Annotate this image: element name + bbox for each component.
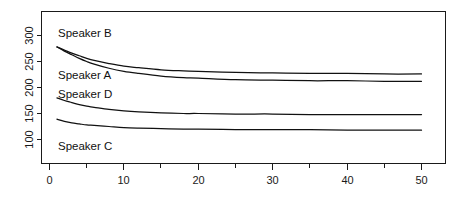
y-tick-label-200: 200 <box>23 78 35 96</box>
x-axis-tick-labels: 0 10 20 30 40 50 <box>46 174 427 186</box>
y-tick-label-300: 300 <box>23 26 35 44</box>
series-label-speaker-c: Speaker C <box>58 140 112 152</box>
y-tick-label-150: 150 <box>23 104 35 122</box>
y-tick-label-100: 100 <box>23 130 35 148</box>
x-tick-label-50: 50 <box>415 174 427 186</box>
series-line-speaker-d <box>57 98 422 115</box>
series-label-speaker-b: Speaker B <box>58 27 112 39</box>
speaker-pitch-line-chart: 300 250 200 150 100 0 10 20 30 <box>0 0 461 203</box>
x-axis-ticks <box>50 164 422 170</box>
x-tick-label-40: 40 <box>341 174 353 186</box>
x-tick-label-10: 10 <box>117 174 129 186</box>
series-annotations: Speaker B Speaker A Speaker D Speaker C <box>58 27 112 152</box>
y-axis-tick-labels: 300 250 200 150 100 <box>23 26 35 148</box>
x-tick-label-30: 30 <box>266 174 278 186</box>
series-line-speaker-b <box>57 47 422 74</box>
x-tick-label-0: 0 <box>46 174 52 186</box>
y-axis-ticks <box>37 36 42 140</box>
x-tick-label-20: 20 <box>192 174 204 186</box>
y-tick-label-250: 250 <box>23 52 35 70</box>
series-label-speaker-d: Speaker D <box>58 88 112 100</box>
chart-container: 300 250 200 150 100 0 10 20 30 <box>0 0 461 203</box>
series-label-speaker-a: Speaker A <box>58 69 111 81</box>
series-line-speaker-c <box>57 119 422 130</box>
